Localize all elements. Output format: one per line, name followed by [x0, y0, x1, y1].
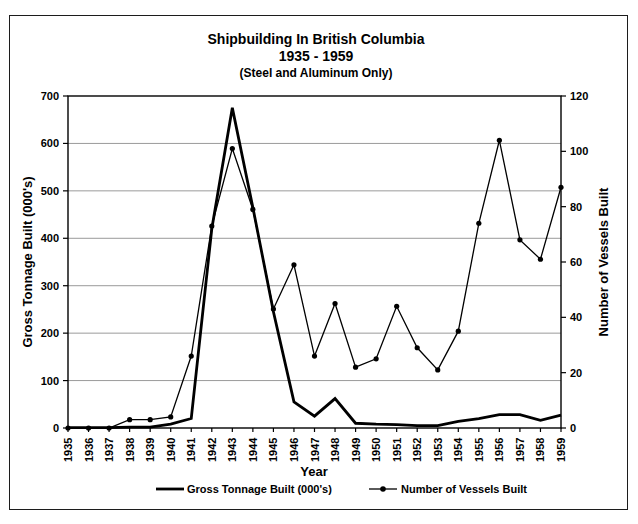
x-tick-label: 1943: [226, 438, 238, 462]
chart-frame: Shipbuilding In British Columbia 1935 - …: [9, 15, 628, 510]
chart-subtitle-note: (Steel and Aluminum Only): [240, 66, 393, 80]
right-tick-label: 0: [570, 422, 576, 434]
x-tick-label: 1957: [514, 438, 526, 462]
series-marker: [86, 425, 91, 430]
x-tick-label: 1944: [247, 437, 259, 462]
series-marker: [435, 367, 440, 372]
series-line-0: [68, 108, 561, 428]
x-tick-label: 1937: [103, 438, 115, 462]
x-tick-label: 1950: [370, 438, 382, 462]
series-marker: [415, 345, 420, 350]
x-tick-label: 1935: [62, 438, 74, 462]
left-tick-label: 0: [53, 422, 59, 434]
series-marker: [456, 329, 461, 334]
chart-subtitle-years: 1935 - 1959: [279, 48, 354, 64]
x-tick-label: 1952: [411, 438, 423, 462]
series-marker: [230, 146, 235, 151]
series-marker: [517, 237, 522, 242]
x-tick-label: 1956: [493, 438, 505, 462]
left-axis-title: Gross Tonnage Built (000's): [20, 176, 35, 347]
x-tick-label: 1938: [124, 438, 136, 462]
left-tick-label: 300: [41, 280, 59, 292]
left-tick-label: 200: [41, 327, 59, 339]
legend-swatch-vessels-dot: [380, 486, 386, 492]
chart-legend: Gross Tonnage Built (000's) Number of Ve…: [156, 483, 527, 495]
series-marker: [65, 425, 70, 430]
right-axis-title: Number of Vessels Built: [596, 187, 611, 336]
left-tick-label: 600: [41, 137, 59, 149]
series-marker: [250, 207, 255, 212]
x-tick-label: 1955: [473, 438, 485, 462]
right-tick-label: 80: [570, 201, 582, 213]
plot-area: 0100200300400500600700020406080100120193…: [41, 90, 589, 462]
x-tick-label: 1951: [391, 438, 403, 462]
x-tick-label: 1942: [206, 438, 218, 462]
series-marker: [394, 304, 399, 309]
series-marker: [476, 221, 481, 226]
right-tick-label: 20: [570, 367, 582, 379]
x-tick-label: 1941: [185, 438, 197, 462]
series-marker: [271, 306, 276, 311]
series-marker: [353, 365, 358, 370]
series-marker: [558, 185, 563, 190]
shipbuilding-line-chart: Shipbuilding In British Columbia 1935 - …: [10, 16, 627, 509]
series-marker: [312, 353, 317, 358]
series-marker: [209, 223, 214, 228]
x-tick-label: 1949: [350, 438, 362, 462]
x-tick-label: 1954: [452, 437, 464, 462]
right-tick-label: 60: [570, 256, 582, 268]
x-tick-label: 1936: [83, 438, 95, 462]
x-tick-label: 1939: [144, 438, 156, 462]
x-axis-title: Year: [300, 464, 327, 479]
right-tick-label: 40: [570, 311, 582, 323]
chart-title: Shipbuilding In British Columbia: [208, 31, 425, 47]
series-marker: [168, 414, 173, 419]
legend-label-vessels: Number of Vessels Built: [401, 483, 527, 495]
right-tick-label: 100: [570, 145, 588, 157]
series-marker: [106, 425, 111, 430]
x-tick-label: 1958: [534, 438, 546, 462]
right-tick-label: 120: [570, 90, 588, 102]
series-marker: [538, 257, 543, 262]
series-marker: [332, 301, 337, 306]
series-marker: [127, 417, 132, 422]
x-tick-label: 1940: [165, 438, 177, 462]
x-tick-label: 1948: [329, 438, 341, 462]
x-tick-label: 1945: [267, 438, 279, 462]
series-marker: [189, 353, 194, 358]
series-line-1: [68, 140, 561, 428]
left-tick-label: 700: [41, 90, 59, 102]
series-marker: [497, 138, 502, 143]
plot-border: [68, 96, 561, 428]
left-tick-label: 500: [41, 185, 59, 197]
x-tick-label: 1953: [432, 438, 444, 462]
x-tick-label: 1946: [288, 438, 300, 462]
x-tick-label: 1959: [555, 438, 567, 462]
series-marker: [374, 356, 379, 361]
left-tick-label: 100: [41, 375, 59, 387]
series-marker: [291, 262, 296, 267]
legend-label-tonnage: Gross Tonnage Built (000's): [187, 483, 332, 495]
left-tick-label: 400: [41, 232, 59, 244]
series-marker: [148, 417, 153, 422]
x-tick-label: 1947: [309, 438, 321, 462]
